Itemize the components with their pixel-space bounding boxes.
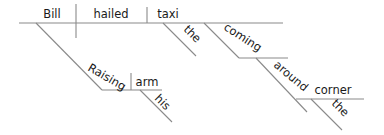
word-prep-object: corner (315, 83, 352, 97)
subject-participle-diagonal (36, 23, 102, 90)
word-object: taxi (157, 7, 179, 21)
word-object-article: the (181, 22, 204, 45)
word-subject: Bill (43, 7, 60, 21)
word-preposition: around (271, 58, 311, 95)
word-prep-object-article: the (329, 96, 352, 119)
word-participle-object-modifier: his (152, 91, 174, 113)
word-verb: hailed (93, 7, 128, 21)
word-subject-participle: Raising (86, 60, 129, 93)
word-participle-object: arm (136, 75, 159, 89)
word-participle: coming (221, 20, 264, 55)
sentence-diagram: Bill hailed taxi Raising arm his the com… (0, 0, 384, 135)
